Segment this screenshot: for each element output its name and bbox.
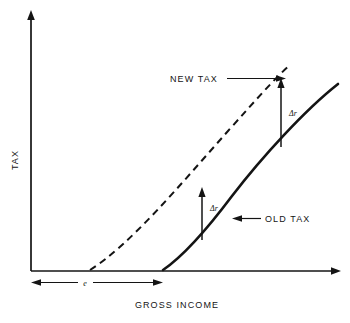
axis-group <box>27 10 341 275</box>
x-axis-label: GROSS INCOME <box>135 300 219 310</box>
old-tax-curve <box>163 84 338 270</box>
delta-r-upper-annotation: Δr <box>277 78 297 147</box>
figure-container: Δr Δr NEW TAX OLD TAX e TAX <box>0 0 350 323</box>
new-tax-label: NEW TAX <box>170 74 218 84</box>
x-axis-arrowhead <box>331 267 341 275</box>
y-axis-label: TAX <box>10 150 20 170</box>
curve-group <box>90 65 338 270</box>
new-tax-curve <box>90 65 290 270</box>
exemption-label: e <box>83 279 87 288</box>
old-tax-callout: OLD TAX <box>232 214 310 224</box>
delta-r-upper-label: Δr <box>288 109 298 118</box>
exemption-span-annotation: e <box>31 279 163 288</box>
y-axis-arrowhead <box>27 10 35 20</box>
new-tax-callout: NEW TAX <box>170 74 286 84</box>
delta-r-lower-annotation: Δr <box>198 187 218 240</box>
tax-diagram-svg: Δr Δr NEW TAX OLD TAX e TAX <box>0 0 350 323</box>
delta-r-lower-label: Δr <box>209 204 219 213</box>
old-tax-label: OLD TAX <box>265 214 310 224</box>
old-tax-callout-arrowhead <box>232 215 242 222</box>
delta-r-lower-arrowhead <box>198 187 205 197</box>
exemption-span-left-arrowhead <box>31 279 41 286</box>
exemption-span-right-arrowhead <box>153 279 163 286</box>
